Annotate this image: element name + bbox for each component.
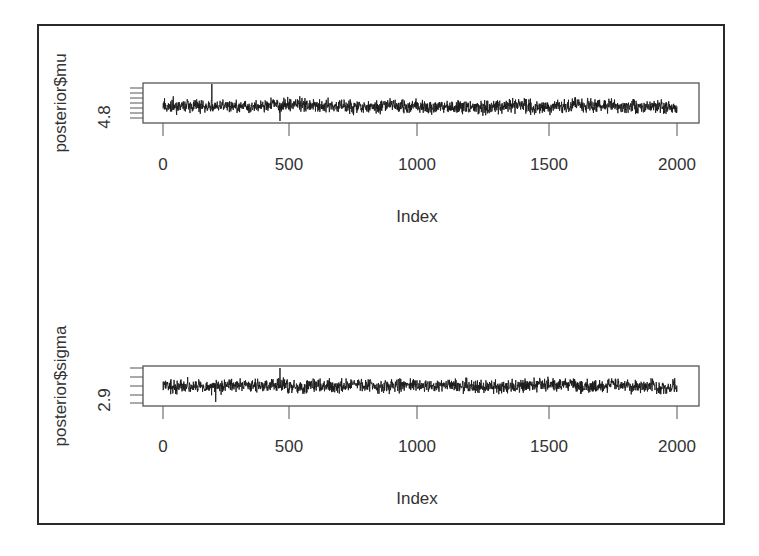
x-axis-ticks-sigma	[163, 406, 677, 419]
x-tick-label: 2000	[658, 155, 696, 174]
y-axis-label-sigma: posterior$sigma	[51, 325, 70, 446]
y-tick-label-mu: 4.8	[95, 105, 114, 129]
trace-plots: 0 500 1000 1500 2000 Index posterior$mu …	[0, 0, 759, 556]
x-tick-label: 1500	[530, 437, 568, 456]
x-tick-label: 500	[275, 437, 303, 456]
y-axis-ticks-sigma	[130, 368, 143, 403]
x-tick-label: 1000	[398, 155, 436, 174]
y-axis-ticks-mu	[130, 88, 143, 118]
trace-line-mu	[163, 84, 677, 121]
x-tick-labels-mu: 0 500 1000 1500 2000	[158, 155, 696, 174]
x-tick-label: 0	[158, 437, 167, 456]
panel-mu: 0 500 1000 1500 2000 Index posterior$mu …	[51, 53, 699, 226]
trace-line-sigma	[163, 368, 677, 402]
x-axis-label-sigma: Index	[396, 489, 438, 508]
x-tick-label: 1000	[398, 437, 436, 456]
x-axis-ticks-mu	[163, 123, 677, 136]
x-tick-label: 0	[158, 155, 167, 174]
y-axis-label-mu: posterior$mu	[51, 53, 70, 152]
y-tick-label-sigma: 2.9	[95, 388, 114, 412]
x-tick-label: 1500	[530, 155, 568, 174]
panel-sigma: 0 500 1000 1500 2000 Index posterior$sig…	[51, 325, 699, 508]
x-tick-label: 500	[275, 155, 303, 174]
x-tick-label: 2000	[658, 437, 696, 456]
x-axis-label-mu: Index	[396, 207, 438, 226]
x-tick-labels-sigma: 0 500 1000 1500 2000	[158, 437, 696, 456]
